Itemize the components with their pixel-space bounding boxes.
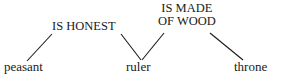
edge-ruler-to-is-made-of-wood bbox=[142, 33, 164, 60]
node-label-peasant: peasant bbox=[4, 60, 43, 74]
relation-label-is-honest: IS HONEST bbox=[52, 20, 116, 33]
relation-is-made-of-wood-line-2: OF WOOD bbox=[158, 15, 216, 28]
semantic-network-diagram: peasant ruler throne IS HONEST IS MADE O… bbox=[0, 0, 284, 78]
node-label-throne: throne bbox=[234, 60, 267, 74]
edge-peasant-to-is-honest bbox=[27, 34, 52, 61]
relation-is-honest-line-1: IS HONEST bbox=[52, 20, 116, 33]
relation-label-is-made-of-wood: IS MADE OF WOOD bbox=[158, 2, 216, 28]
edge-is-honest-to-ruler bbox=[121, 34, 141, 60]
edge-is-made-of-wood-to-throne bbox=[210, 33, 243, 60]
node-label-ruler: ruler bbox=[126, 60, 151, 74]
